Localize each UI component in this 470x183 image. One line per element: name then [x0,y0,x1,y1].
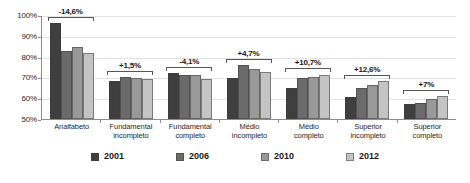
bar-2012[interactable] [319,75,330,120]
bar-2006[interactable] [238,65,249,119]
y-axis-tick-label: 70% [3,74,37,82]
x-axis-category-label-line: Médio [279,122,338,131]
x-axis-category-label-line: incompleto [101,131,160,140]
grouped-bar-chart: 100%90%80%70%60%50% -14,6%+1,5%-4,1%+4,7… [0,0,470,183]
bar-2010[interactable] [426,99,437,119]
x-axis-category-label-line: Fundamental [161,122,220,131]
legend-item-2012[interactable]: 2012 [346,152,379,161]
bar-groups [42,16,456,119]
x-axis-category-label-line: Analfabeto [42,122,101,131]
bar-2006[interactable] [297,78,308,119]
bar-2010[interactable] [190,75,201,119]
x-axis-category-label-line: incompleto [338,131,397,140]
x-axis-category-label-line: Fundamental [101,122,160,131]
bar-group [397,16,456,119]
bar-2006[interactable] [61,51,72,119]
y-axis-tick-label: 50% [3,116,37,124]
bar-2001[interactable] [286,88,297,119]
x-axis-category-label: Médioincompleto [220,122,279,140]
legend-item-2006[interactable]: 2006 [176,152,209,161]
bar-2012[interactable] [378,81,389,119]
bar-2012[interactable] [83,53,94,119]
delta-annotation-label: -14,6% [59,7,83,16]
plot-area: -14,6%+1,5%-4,1%+4,7%+10,7%+12,6%+7% [41,16,456,120]
bar-2001[interactable] [404,104,415,119]
legend-label: 2012 [359,152,379,161]
bar-2006[interactable] [415,103,426,119]
y-axis-tick-mark [38,16,41,17]
x-axis-category-label-line: completo [398,131,457,140]
bar-2001[interactable] [168,73,179,119]
x-axis-line [41,119,456,120]
bar-2010[interactable] [367,85,378,119]
bar-2001[interactable] [109,81,120,119]
x-axis-category-label-line: completo [279,131,338,140]
bar-2006[interactable] [356,88,367,119]
y-axis-tick-mark [38,120,41,121]
legend-label: 2006 [189,152,209,161]
bar-2012[interactable] [260,72,271,119]
bar-2010[interactable] [131,78,142,119]
x-axis-category-label: Fundamentalincompleto [101,122,160,140]
legend-item-2001[interactable]: 2001 [91,152,124,161]
x-axis-category-label-line: Superior [398,122,457,131]
legend-swatch-icon [346,153,354,161]
y-axis-tick-label: 100% [3,12,37,20]
y-axis-tick-mark [38,58,41,59]
y-axis-tick-mark [38,99,41,100]
legend-label: 2001 [104,152,124,161]
legend: 2001200620102012 [0,152,470,161]
x-axis-category-labels: AnalfabetoFundamentalincompletoFundament… [42,122,457,140]
x-axis-category-label: Superiorincompleto [338,122,397,140]
bar-group [42,16,101,119]
bar-2010[interactable] [72,47,83,119]
x-axis-category-label: Analfabeto [42,122,101,140]
y-axis-tick-label: 90% [3,33,37,41]
x-axis-category-label: Fundamentalcompleto [161,122,220,140]
legend-swatch-icon [176,153,184,161]
x-axis-category-label-line: Médio [220,122,279,131]
bar-2012[interactable] [201,79,212,119]
bar-2006[interactable] [179,75,190,119]
bar-2006[interactable] [120,77,131,119]
x-axis-category-label: Superiorcompleto [398,122,457,140]
legend-swatch-icon [261,153,269,161]
legend-swatch-icon [91,153,99,161]
bar-group [338,16,397,119]
bar-group [101,16,160,119]
y-axis-tick-mark [38,78,41,79]
legend-label: 2010 [274,152,294,161]
bar-group [160,16,219,119]
y-axis-tick-label: 80% [3,54,37,62]
bar-2001[interactable] [345,97,356,119]
bar-2012[interactable] [437,96,448,119]
x-axis-category-label: Médiocompleto [279,122,338,140]
bar-2010[interactable] [308,77,319,119]
bar-2001[interactable] [50,23,61,119]
bar-group [219,16,278,119]
x-axis-category-label-line: incompleto [220,131,279,140]
x-axis-category-label-line: completo [161,131,220,140]
legend-item-2010[interactable]: 2010 [261,152,294,161]
y-axis-tick-mark [38,37,41,38]
bar-2010[interactable] [249,69,260,119]
bar-2012[interactable] [142,79,153,119]
bar-group [279,16,338,119]
y-axis-tick-label: 60% [3,95,37,103]
bar-2001[interactable] [227,78,238,119]
x-axis-category-label-line: Superior [338,122,397,131]
